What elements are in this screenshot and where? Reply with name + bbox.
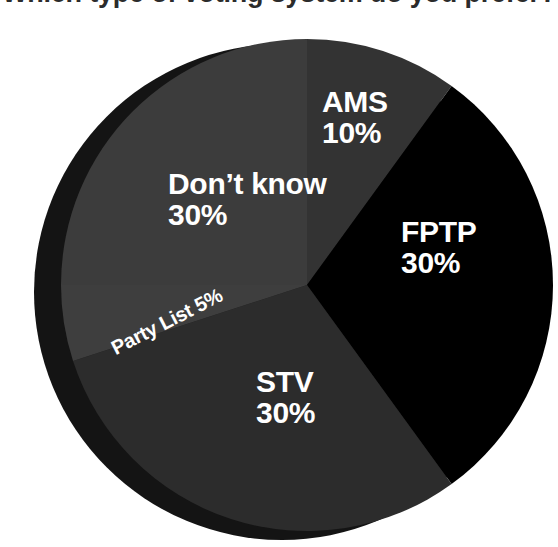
slice-label-fptp: FPTP 30% xyxy=(401,216,476,278)
pie-slice-don-t-know xyxy=(61,39,307,285)
pie-chart-figure: Which type of voting system do you prefe… xyxy=(0,0,558,547)
slice-label-dont-know: Don’t know 30% xyxy=(168,168,327,230)
pie-slice-group xyxy=(61,39,553,531)
slice-label-stv: STV 30% xyxy=(256,366,315,428)
slice-label-ams: AMS 10% xyxy=(322,86,388,148)
